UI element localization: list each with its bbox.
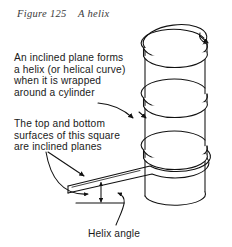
leader-to-helix-angle xyxy=(116,193,124,225)
figure-container: Figure 125 A helix An inclined plane for… xyxy=(0,0,232,247)
helix-turn-3 xyxy=(141,131,207,169)
leader-to-top-surface xyxy=(48,152,84,176)
leader-to-helix-band xyxy=(98,103,133,118)
leader-to-bottom-surface xyxy=(46,152,88,194)
inclined-plane-tail xyxy=(68,171,140,194)
helix-turn-2 xyxy=(141,79,207,117)
helix-line-drawing xyxy=(0,0,232,247)
